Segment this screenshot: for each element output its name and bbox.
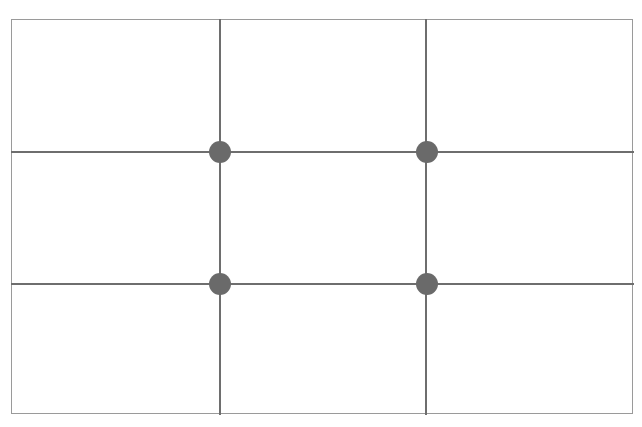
vertical-third-line-left (219, 19, 221, 415)
intersection-point-bottom-right (416, 273, 438, 295)
intersection-point-top-right (416, 141, 438, 163)
intersection-point-bottom-left (209, 273, 231, 295)
grid-frame (11, 19, 633, 414)
intersection-point-top-left (209, 141, 231, 163)
horizontal-third-line-top (11, 151, 634, 153)
horizontal-third-line-bottom (11, 283, 634, 285)
vertical-third-line-right (425, 19, 427, 415)
